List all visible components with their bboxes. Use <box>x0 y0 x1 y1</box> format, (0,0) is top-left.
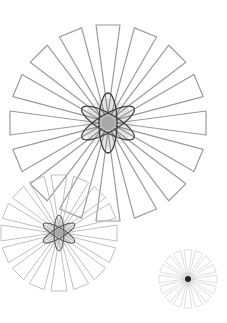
starburst-artwork <box>0 0 227 323</box>
starburst-large <box>10 25 206 221</box>
starburst-small <box>159 250 217 308</box>
